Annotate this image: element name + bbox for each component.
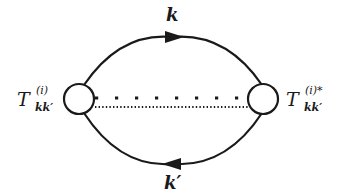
right-vertex-subscript: kk′ <box>304 101 322 114</box>
left-vertex-subscript: kk′ <box>35 101 53 114</box>
bottom-momentum-label: k′ <box>164 172 181 193</box>
right-vertex-circle <box>248 84 278 114</box>
left-vertex-circle <box>64 84 94 114</box>
top-propagator-line <box>84 37 262 85</box>
top-momentum-label: k <box>166 4 178 25</box>
right-vertex-superscript: (i)* <box>305 84 323 97</box>
right-vertex-symbol: T <box>286 88 299 110</box>
arrow-left-icon <box>162 158 181 170</box>
left-vertex-superscript: (i) <box>36 84 48 97</box>
left-vertex-label: T (i) kk′ <box>17 88 63 118</box>
left-vertex-symbol: T <box>17 88 30 110</box>
right-vertex-label: T (i)* kk′ <box>286 88 338 118</box>
bottom-propagator-line <box>84 113 262 164</box>
arrow-right-icon <box>165 31 184 43</box>
